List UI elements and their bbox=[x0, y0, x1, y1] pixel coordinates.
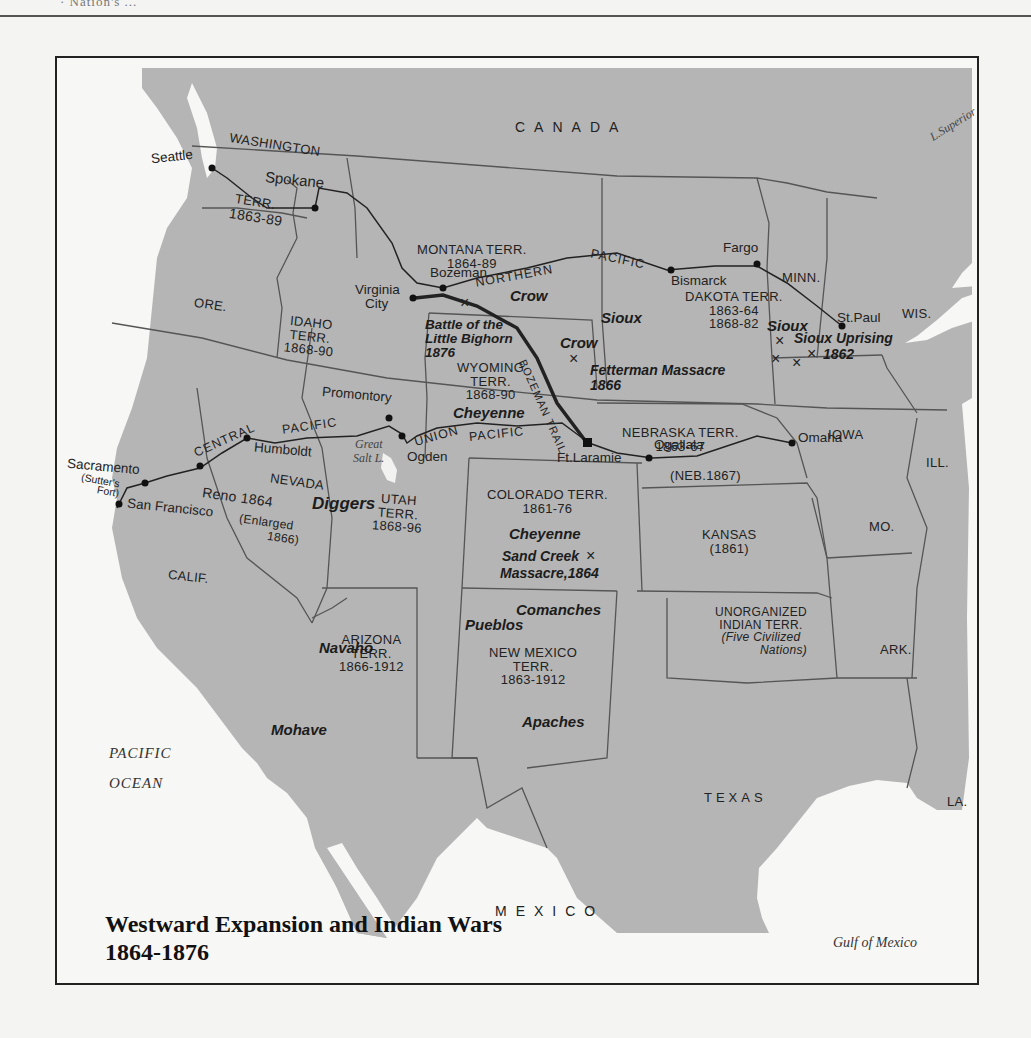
label-ogallala: Ogallala bbox=[654, 438, 704, 452]
little-bighorn-2: Little Bighorn bbox=[425, 332, 513, 346]
virginia-city-1: Virginia bbox=[355, 283, 400, 297]
battle-marker-sioux-1: × bbox=[775, 333, 784, 350]
label-la: LA. bbox=[947, 795, 967, 809]
map-title: Westward Expansion and Indian Wars 1864-… bbox=[105, 911, 502, 966]
arizona-years: 1866-1912 bbox=[339, 660, 404, 674]
label-salt-lake: Salt L. bbox=[353, 452, 384, 465]
indian-terr-note-2: Nations) bbox=[715, 644, 807, 657]
little-bighorn-1: Battle of the bbox=[425, 318, 513, 332]
label-ogden: Ogden bbox=[407, 450, 448, 464]
label-gulf-of-mexico: Gulf of Mexico bbox=[833, 936, 917, 951]
label-canada: CANADA bbox=[515, 120, 627, 135]
label-pacific: PACIFIC bbox=[109, 746, 172, 762]
label-bismarck: Bismarck bbox=[671, 274, 727, 288]
label-st-paul: St.Paul bbox=[837, 311, 881, 325]
label-tribe-pueblos: Pueblos bbox=[465, 617, 523, 633]
fetterman-2: 1866 bbox=[590, 378, 725, 393]
label-battle-sioux-uprising: Sioux Uprising bbox=[794, 331, 893, 346]
label-battle-fetterman: Fetterman Massacre 1866 bbox=[590, 363, 725, 392]
label-ark: ARK. bbox=[880, 643, 912, 657]
label-battle-sand-creek: Sand Creek bbox=[502, 549, 579, 564]
dakota-name: DAKOTA TERR. bbox=[685, 290, 783, 304]
label-tribe-crow-1: Crow bbox=[510, 288, 548, 304]
label-tribe-diggers: Diggers bbox=[312, 495, 375, 513]
label-minn: MINN. bbox=[782, 271, 820, 285]
label-battle-little-bighorn: Battle of the Little Bighorn 1876 bbox=[425, 318, 513, 361]
indian-terr-name-1: UNORGANIZED bbox=[715, 606, 807, 619]
page-header: · Nation's ... bbox=[0, 0, 1031, 16]
label-omaha: Omaha bbox=[798, 431, 842, 445]
dakota-years-1: 1863-64 bbox=[685, 304, 783, 318]
kansas-years: (1861) bbox=[702, 542, 757, 556]
label-ft-laramie: Ft.Laramie bbox=[557, 451, 622, 465]
battle-marker-little-bighorn: × bbox=[460, 295, 469, 312]
label-ill: ILL. bbox=[926, 456, 949, 470]
battle-marker-sand-creek: × bbox=[586, 548, 595, 565]
montana-name: MONTANA TERR. bbox=[417, 243, 527, 257]
header-rule bbox=[0, 15, 1031, 17]
wyoming-years: 1868-90 bbox=[457, 388, 524, 402]
battle-marker-fetterman: × bbox=[569, 351, 578, 368]
label-ocean: OCEAN bbox=[109, 776, 163, 792]
label-tribe-comanches: Comanches bbox=[516, 602, 601, 618]
label-tribe-mohave: Mohave bbox=[271, 722, 327, 738]
label-idaho: IDAHO TERR. 1868-90 bbox=[283, 314, 337, 360]
label-colorado: COLORADO TERR. 1861-76 bbox=[487, 488, 608, 515]
label-battle-sand-creek-year: Massacre,1864 bbox=[500, 566, 599, 581]
colorado-years: 1861-76 bbox=[487, 502, 608, 516]
wyoming-name: WYOMING bbox=[457, 361, 524, 375]
label-battle-sioux-uprising-year: 1862 bbox=[823, 347, 854, 362]
title-line-2: 1864-1876 bbox=[105, 939, 502, 967]
map-frame: CANADA MEXICO PACIFIC OCEAN Gulf of Mexi… bbox=[55, 56, 979, 985]
label-tribe-apaches: Apaches bbox=[522, 714, 585, 730]
label-utah: UTAH TERR. 1868-96 bbox=[372, 491, 425, 535]
virginia-city-2: City bbox=[355, 297, 400, 311]
indian-terr-note-1: (Five Civilized bbox=[715, 631, 807, 644]
label-virginia-city: Virginia City bbox=[355, 283, 400, 311]
label-mexico: MEXICO bbox=[495, 904, 604, 919]
label-tribe-navaho: Navaho bbox=[319, 640, 373, 656]
wyoming-terr: TERR. bbox=[457, 375, 524, 389]
label-tribe-crow-2: Crow bbox=[560, 335, 598, 351]
new-mexico-years: 1863-1912 bbox=[489, 673, 577, 687]
label-wyoming: WYOMING TERR. 1868-90 bbox=[457, 361, 524, 402]
label-nebraska-state: (NEB.1867) bbox=[670, 469, 741, 483]
running-header: · Nation's ... bbox=[60, 0, 137, 10]
label-kansas: KANSAS (1861) bbox=[702, 528, 757, 555]
battle-marker-sioux-2: × bbox=[771, 351, 780, 368]
title-line-1: Westward Expansion and Indian Wars bbox=[105, 911, 502, 939]
label-tribe-cheyenne-2: Cheyenne bbox=[509, 526, 581, 542]
map-graphic bbox=[57, 58, 977, 983]
label-great: Great bbox=[355, 438, 383, 451]
label-wis: WIS. bbox=[902, 307, 931, 321]
new-mexico-terr: TERR. bbox=[489, 660, 577, 674]
new-mexico-name: NEW MEXICO bbox=[489, 646, 577, 660]
fetterman-1: Fetterman Massacre bbox=[590, 363, 725, 378]
label-fargo: Fargo bbox=[723, 241, 758, 255]
battle-marker-sioux-4: × bbox=[807, 346, 816, 363]
label-texas: TEXAS bbox=[704, 791, 767, 805]
label-mo: MO. bbox=[869, 520, 894, 534]
label-tribe-cheyenne-1: Cheyenne bbox=[453, 405, 525, 421]
battle-marker-sioux-3: × bbox=[792, 355, 801, 372]
label-indian-territory: UNORGANIZED INDIAN TERR. (Five Civilized… bbox=[715, 606, 807, 656]
label-new-mexico: NEW MEXICO TERR. 1863-1912 bbox=[489, 646, 577, 687]
label-tribe-sioux-1: Sioux bbox=[601, 310, 642, 326]
colorado-name: COLORADO TERR. bbox=[487, 488, 608, 502]
little-bighorn-3: 1876 bbox=[425, 346, 513, 360]
kansas-name: KANSAS bbox=[702, 528, 757, 542]
